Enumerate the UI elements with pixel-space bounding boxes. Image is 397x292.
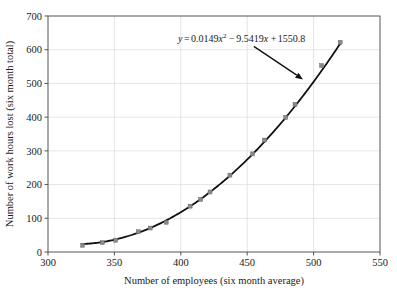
- x-axis-tick-labels: 300350400450500550: [40, 257, 388, 268]
- annotation-arrow-shaft: [254, 46, 297, 75]
- y-tick-label: 700: [26, 11, 42, 22]
- quadratic-fit-line: [83, 44, 341, 244]
- y-tick-label: 0: [37, 247, 42, 258]
- plot-border: [48, 16, 380, 252]
- x-tick-label: 500: [306, 257, 322, 268]
- data-point-marker: [81, 243, 85, 247]
- y-tick-label: 400: [26, 112, 42, 123]
- x-tick-label: 350: [107, 257, 123, 268]
- x-tick-label: 550: [372, 257, 388, 268]
- data-point-marker: [228, 173, 232, 177]
- data-point-marker: [293, 102, 297, 106]
- axis-titles: Number of employees (six month average)N…: [4, 40, 304, 287]
- y-tick-label: 100: [26, 213, 42, 224]
- data-points: [81, 40, 343, 247]
- y-axis-tick-labels: 0100200300400500600700: [26, 11, 42, 258]
- x-tick-label: 400: [173, 257, 189, 268]
- data-point-marker: [199, 197, 203, 201]
- data-point-marker: [164, 220, 168, 224]
- y-tick-label: 500: [26, 78, 42, 89]
- plot-frame: [48, 16, 380, 252]
- data-point-marker: [320, 64, 324, 68]
- data-point-marker: [136, 230, 140, 234]
- chart-figure: 300350400450500550 010020030040050060070…: [0, 0, 397, 292]
- x-tick-label: 450: [239, 257, 255, 268]
- x-tick-label: 300: [40, 257, 56, 268]
- equation-annotation: y=0.0149x2−9.5419x+1550.8: [177, 32, 305, 79]
- y-tick-label: 300: [26, 146, 42, 157]
- data-point-marker: [114, 238, 118, 242]
- axis-ticks: [45, 16, 381, 256]
- annotation-arrow-head: [295, 73, 303, 80]
- data-point-marker: [262, 138, 266, 142]
- y-tick-label: 600: [26, 44, 42, 55]
- gridlines: [48, 16, 380, 252]
- x-axis-title: Number of employees (six month average): [124, 275, 304, 287]
- data-point-marker: [100, 241, 104, 245]
- data-point-marker: [338, 40, 342, 44]
- data-point-marker: [251, 152, 255, 156]
- y-tick-label: 200: [26, 179, 42, 190]
- regression-equation-text: y=0.0149x2−9.5419x+1550.8: [177, 32, 305, 44]
- data-point-marker: [284, 115, 288, 119]
- regression-curve: [83, 44, 341, 244]
- data-point-marker: [148, 226, 152, 230]
- y-axis-title: Number of work hours lost (six month tot…: [4, 40, 16, 227]
- data-point-marker: [208, 190, 212, 194]
- data-point-marker: [188, 204, 192, 208]
- scatter-plot-svg: 300350400450500550 010020030040050060070…: [0, 0, 397, 292]
